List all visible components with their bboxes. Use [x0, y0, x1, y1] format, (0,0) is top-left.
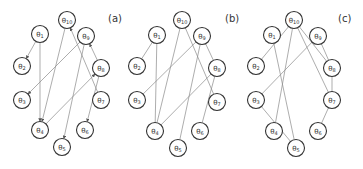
- node-b-theta1: θ1: [149, 27, 166, 44]
- node-b-theta6: θ6: [192, 123, 209, 140]
- edge-a-theta1-theta2: [26, 41, 36, 58]
- node-c-theta8: θ8: [324, 60, 341, 77]
- node-b-theta4: θ4: [147, 123, 164, 140]
- node-a-theta7: θ7: [93, 92, 110, 109]
- node-c-theta4: θ4: [266, 123, 283, 140]
- node-c-theta5: θ5: [288, 140, 305, 157]
- node-b-theta2: θ2: [129, 58, 146, 75]
- panel-label-c: (c): [338, 13, 351, 24]
- node-b-theta3: θ3: [129, 92, 146, 109]
- node-c-theta9: θ9: [310, 28, 327, 45]
- edge-a-theta8-theta9: [90, 44, 98, 61]
- panel-label-a: (a): [108, 13, 122, 24]
- node-a-theta4: θ4: [32, 122, 49, 139]
- node-c-theta6: θ6: [310, 123, 327, 140]
- edge-c-theta10-theta4: [276, 28, 293, 122]
- node-a-theta2: θ2: [14, 58, 31, 75]
- node-b-theta10: θ10: [174, 12, 191, 29]
- node-a-theta1: θ1: [32, 26, 49, 43]
- node-b-theta5: θ5: [170, 140, 187, 157]
- edge-b-theta1-theta4: [155, 44, 157, 123]
- panel-c-undirected-graph: θ10θ1θ9θ2θ8θ3θ7θ4θ6θ5(c): [248, 12, 352, 157]
- node-c-theta2: θ2: [248, 58, 265, 75]
- node-b-theta8: θ8: [209, 60, 226, 77]
- graph-figure: θ10θ1θ9θ2θ8θ3θ7θ4θ6θ5(a) θ10θ1θ9θ2θ8θ3θ7…: [0, 0, 363, 169]
- node-a-theta10: θ10: [59, 12, 76, 29]
- node-b-theta9: θ9: [194, 28, 211, 45]
- node-a-theta6: θ6: [77, 122, 94, 139]
- edge-b-theta1-theta2: [142, 42, 153, 59]
- edge-a-theta9-theta3: [28, 42, 80, 94]
- edge-c-theta9-theta8: [321, 44, 328, 60]
- edge-c-theta7-theta6: [322, 108, 329, 124]
- node-c-theta7: θ7: [324, 92, 341, 109]
- panel-label-b: (b): [225, 13, 239, 24]
- edge-b-theta9-theta3: [143, 42, 196, 94]
- panel-a-directed-graph: θ10θ1θ9θ2θ8θ3θ7θ4θ6θ5(a): [14, 12, 123, 156]
- node-c-theta1: θ1: [264, 27, 281, 44]
- node-a-theta3: θ3: [14, 92, 31, 109]
- edge-b-theta9-theta8: [206, 44, 214, 61]
- node-a-theta8: θ8: [93, 60, 110, 77]
- node-b-theta7: θ7: [209, 94, 226, 111]
- node-a-theta9: θ9: [78, 28, 95, 45]
- node-c-theta10: θ10: [286, 12, 303, 29]
- node-a-theta5: θ5: [54, 139, 71, 156]
- node-c-theta3: θ3: [248, 92, 265, 109]
- edge-a-theta4-theta8: [46, 74, 95, 124]
- panel-b-undirected-graph: θ10θ1θ9θ2θ8θ3θ7θ4θ6θ5(b): [129, 12, 240, 157]
